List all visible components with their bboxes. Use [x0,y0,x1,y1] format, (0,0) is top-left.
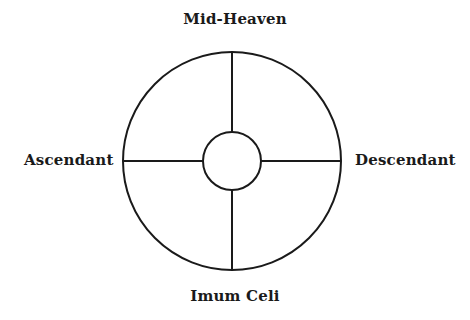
label-descendant: Descendant [355,151,456,169]
label-mid-heaven: Mid-Heaven [0,10,470,28]
inner-circle [203,132,261,190]
label-imum-celi: Imum Celi [0,287,470,305]
label-ascendant: Ascendant [24,151,114,169]
